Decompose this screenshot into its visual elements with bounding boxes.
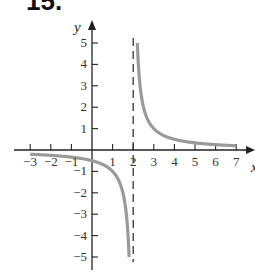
right-branch-curve: [137, 43, 236, 146]
y-tick-label: −5: [73, 249, 87, 264]
y-tick-label: −3: [73, 206, 87, 221]
y-tick-label: −2: [73, 185, 87, 200]
x-tick-label: −3: [23, 154, 37, 169]
x-tick-label: 7: [233, 154, 240, 169]
y-tick-label: 3: [81, 78, 88, 93]
x-tick-label: 5: [192, 154, 199, 169]
y-axis-label: y: [72, 19, 81, 35]
x-tick-label: 2: [130, 154, 137, 169]
y-tick-label: 2: [81, 99, 88, 114]
y-tick-label: −4: [73, 228, 87, 243]
y-tick-label: 1: [81, 121, 88, 136]
x-axis-label: x: [250, 159, 255, 175]
x-tick-label: 3: [151, 154, 158, 169]
function-graph: yx −3−2−11234567−5−4−3−2−112345: [0, 0, 255, 274]
y-tick-label: −1: [73, 163, 87, 178]
x-axis-arrow-icon: [246, 146, 255, 154]
y-tick-label: 4: [81, 56, 88, 71]
y-tick-label: 5: [81, 35, 88, 50]
x-tick-label: 4: [171, 154, 178, 169]
x-tick-label: 6: [212, 154, 219, 169]
x-tick-label: 1: [109, 154, 116, 169]
x-tick-label: −2: [44, 154, 58, 169]
y-axis-arrow-icon: [88, 20, 96, 30]
